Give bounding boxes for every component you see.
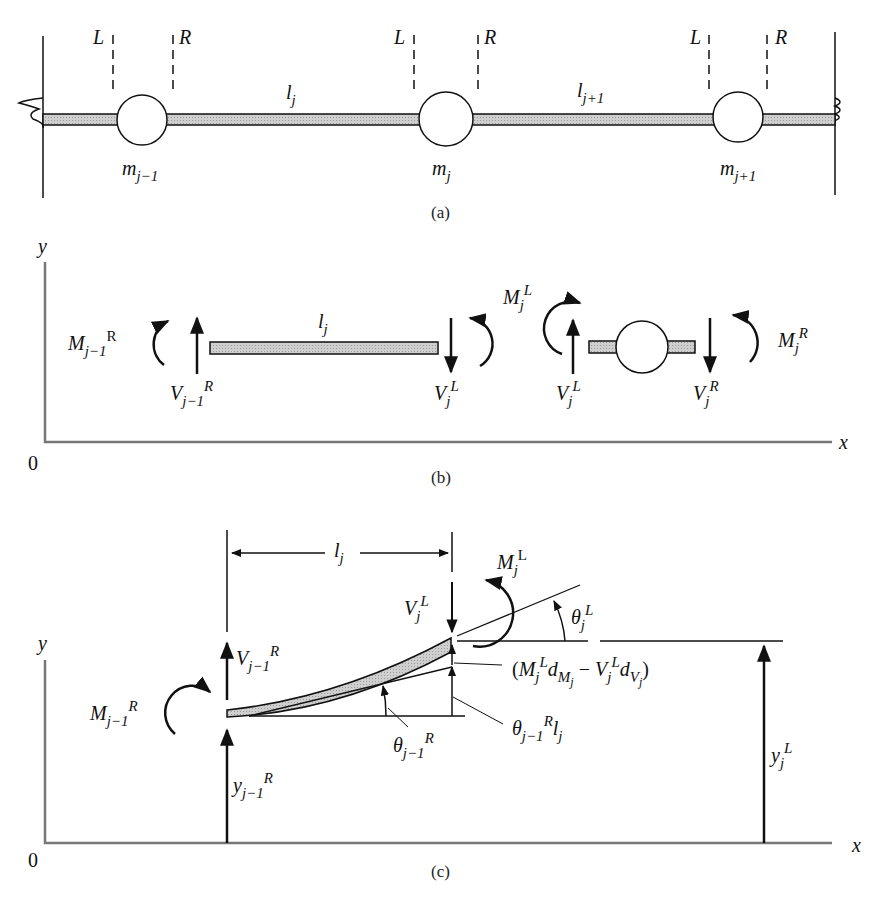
moment-j-L-beam-arrow <box>470 318 493 366</box>
section-cuts <box>113 35 767 95</box>
dimension-label-lj: lj <box>334 540 344 560</box>
label-V-j-L-mass: VjL <box>556 383 581 403</box>
moment-jm1-R-arrow <box>154 321 168 365</box>
axis-x-label-b: x <box>839 432 848 452</box>
section-label-R3: R <box>775 27 787 47</box>
axis-x-label-c: x <box>852 835 861 855</box>
span-label-lj: lj <box>286 82 296 102</box>
label-theta-jm1-R: θj−1R <box>393 735 434 755</box>
moment-j-R-arrow <box>733 315 758 362</box>
label-M-j-L-c: MjL <box>497 552 527 572</box>
section-label-L1: L <box>93 27 104 47</box>
mass-jm1-circle <box>117 95 167 145</box>
label-M-j-L: MjL <box>503 287 532 307</box>
label-V-j-L-beam: VjL <box>434 383 459 403</box>
origin-label-b: 0 <box>28 453 38 473</box>
label-M-jm1-R: Mj−1R <box>68 333 116 353</box>
mass-label-jp1: mj+1 <box>720 158 756 178</box>
label-V-j-L-c: VjL <box>404 598 429 618</box>
moment-j-L-arrow-c <box>473 580 513 647</box>
section-label-R1: R <box>179 27 191 47</box>
beam-segment-b <box>210 342 438 354</box>
label-rotation-term: θj−1Rlj <box>512 718 563 738</box>
tangent-line-jm1 <box>249 667 452 716</box>
caption-c: (c) <box>431 862 450 882</box>
angle-theta-j-arc <box>554 601 565 641</box>
moment-j-L-mass-arrow <box>544 301 580 354</box>
span-label-ljp1: lj+1 <box>577 80 604 100</box>
section-label-L3: L <box>690 27 701 47</box>
axis-y-label-c: y <box>38 633 47 653</box>
tangent-line-j <box>457 585 580 636</box>
mass-jp1-circle <box>713 92 763 142</box>
mass-j-circle-b <box>616 321 668 373</box>
moment-jm1-R-arrow-c <box>165 686 210 734</box>
panel-b <box>45 262 832 442</box>
axis-y-label-b: y <box>38 236 47 256</box>
origin-label-c: 0 <box>28 850 38 870</box>
label-theta-j-L: θjL <box>571 607 593 627</box>
caption-a: (a) <box>431 203 450 223</box>
left-break-icon <box>19 98 43 128</box>
panel-c <box>45 530 832 843</box>
mass-label-j: mj <box>432 158 451 178</box>
section-label-L2: L <box>394 27 405 47</box>
angle-theta-jm1-arc <box>383 686 386 716</box>
axes-c <box>45 660 832 843</box>
label-deflection-term: (MjLdMj − VjLdVj) <box>512 659 649 679</box>
section-label-R2: R <box>484 27 496 47</box>
label-V-jm1-R: Vj−1R <box>170 383 213 403</box>
label-M-jm1-R-c: Mj−1R <box>90 703 138 723</box>
beam-label-b: lj <box>318 311 328 331</box>
label-y-jm1-R: yj−1R <box>233 775 273 795</box>
label-y-j-L: yjL <box>771 745 792 765</box>
mass-label-jm1: mj−1 <box>122 158 158 178</box>
label-V-j-R: VjR <box>693 383 719 403</box>
label-M-j-R: MjR <box>778 330 808 350</box>
label-V-jm1-R-c: Vj−1R <box>236 648 279 668</box>
mass-j-circle <box>419 92 473 146</box>
caption-b: (b) <box>431 468 451 488</box>
figure-canvas <box>0 0 887 905</box>
